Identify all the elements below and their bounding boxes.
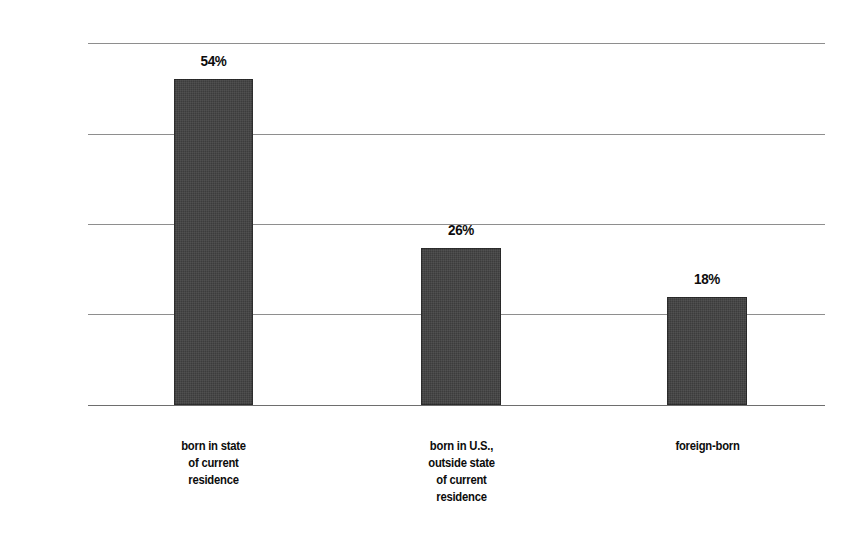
axis-baseline — [88, 405, 825, 406]
category-label-born-in-us-outside-state: born in U.S., outside state of current r… — [389, 438, 534, 506]
plot-area: 60% 45% 30% 15% 0% 54% 26% 18% — [0, 0, 865, 420]
value-label-born-in-us-outside-state: 26% — [407, 221, 515, 238]
bar-foreign-born[interactable] — [667, 297, 747, 405]
category-label-foreign-born: foreign-born — [635, 438, 780, 455]
bar-born-in-us-outside-state[interactable] — [421, 248, 501, 405]
value-label-born-in-state: 54% — [160, 52, 267, 69]
value-label-foreign-born: 18% — [653, 270, 761, 287]
bar-chart: 60% 45% 30% 15% 0% 54% 26% 18% born in s… — [0, 0, 865, 555]
category-label-born-in-state: born in state of current residence — [141, 438, 286, 489]
gridline-60 — [88, 43, 825, 44]
bar-born-in-state[interactable] — [174, 79, 253, 405]
